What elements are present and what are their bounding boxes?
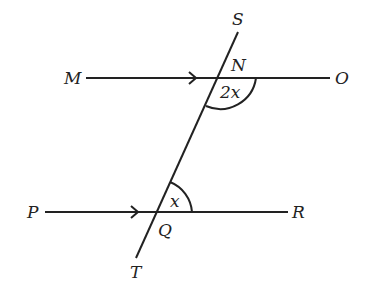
label-o: O <box>335 68 349 88</box>
label-q: Q <box>158 220 172 240</box>
label-s: S <box>232 9 244 29</box>
label-r: R <box>291 202 305 222</box>
label-m: M <box>63 68 82 88</box>
label-n: N <box>230 55 247 75</box>
label-p: P <box>26 202 39 222</box>
label-t: T <box>130 262 143 282</box>
angle-label-x: x <box>170 191 180 211</box>
geometry-diagram: S N M O 2x x P Q R T <box>0 0 367 304</box>
angle-label-2x: 2x <box>219 82 241 102</box>
transversal-line-st <box>136 32 238 258</box>
